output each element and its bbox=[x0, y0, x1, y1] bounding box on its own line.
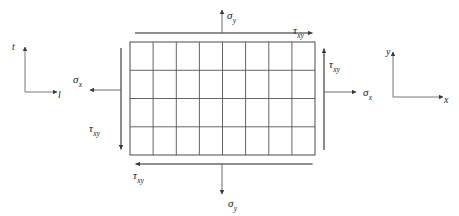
global-axes bbox=[393, 52, 443, 97]
figure-canvas: σy σy σx σx τxy τxy τxy τxy t l y x bbox=[0, 0, 459, 216]
diagram-vector-layer bbox=[0, 0, 459, 216]
stress-element-grid bbox=[130, 42, 315, 155]
tau-xy-top-label: τxy bbox=[293, 21, 304, 40]
tau-xy-left-label: τxy bbox=[89, 119, 100, 138]
material-axis-t-label: t bbox=[12, 42, 15, 52]
material-axes bbox=[25, 47, 57, 92]
tau-xy-bottom-label: τxy bbox=[133, 166, 144, 185]
sigma-x-right-label: σx bbox=[363, 83, 372, 102]
global-axis-y-label: y bbox=[386, 47, 390, 57]
sigma-y-top-label: σy bbox=[227, 6, 236, 25]
sigma-y-bottom-label: σy bbox=[228, 194, 237, 213]
sigma-x-left-label: σx bbox=[73, 70, 82, 89]
global-axis-x-label: x bbox=[444, 95, 448, 105]
material-axis-l-label: l bbox=[58, 90, 61, 100]
tau-xy-right-label: τxy bbox=[329, 55, 340, 74]
